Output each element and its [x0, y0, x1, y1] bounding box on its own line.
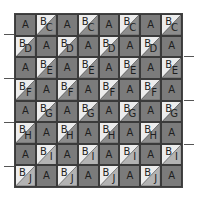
triangle-label-top: B: [103, 168, 110, 178]
half-square-triangle-e: BE: [36, 57, 57, 79]
half-square-triangle-d: BD: [15, 36, 36, 58]
triangle-label-bottom: C: [129, 23, 136, 33]
half-square-triangle-h: BH: [140, 122, 161, 144]
patch-label: A: [147, 63, 154, 73]
patch-label: A: [64, 20, 71, 30]
triangle-label-top: B: [61, 82, 68, 92]
patch-a: A: [15, 101, 36, 123]
patch-label: A: [85, 85, 92, 95]
triangle-label-bottom: D: [108, 44, 116, 54]
triangle-label-bottom: E: [130, 66, 136, 76]
patch-a: A: [140, 101, 161, 123]
triangle-label-bottom: H: [108, 131, 116, 141]
triangle-label-bottom: J: [112, 174, 115, 184]
triangle-label-top: B: [144, 82, 151, 92]
triangle-label-bottom: I: [133, 152, 136, 162]
half-square-triangle-d: BD: [57, 36, 78, 58]
triangle-label-bottom: D: [149, 44, 157, 54]
half-square-triangle-c: BC: [36, 14, 57, 36]
patch-a: A: [119, 36, 140, 58]
patch-a: A: [78, 122, 99, 144]
triangle-label-top: B: [144, 168, 151, 178]
patch-a: A: [99, 14, 120, 36]
patch-label: A: [22, 150, 29, 160]
patch-label: A: [85, 128, 92, 138]
patch-label: A: [106, 150, 113, 160]
half-square-triangle-g: BG: [119, 101, 140, 123]
half-square-triangle-h: BH: [15, 122, 36, 144]
triangle-label-top: B: [19, 168, 26, 178]
half-square-triangle-g: BG: [161, 101, 182, 123]
patch-a: A: [140, 144, 161, 166]
patch-a: A: [161, 79, 182, 101]
patch-a: A: [99, 144, 120, 166]
half-square-triangle-i: BI: [161, 144, 182, 166]
thread-tick-left: [4, 34, 14, 35]
patch-a: A: [57, 14, 78, 36]
half-square-triangle-h: BH: [57, 122, 78, 144]
triangle-label-bottom: G: [45, 109, 53, 119]
half-square-triangle-f: BF: [15, 79, 36, 101]
triangle-label-bottom: D: [66, 44, 74, 54]
patch-label: A: [22, 63, 29, 73]
patch-label: A: [126, 128, 133, 138]
triangle-label-bottom: C: [171, 23, 178, 33]
half-square-triangle-e: BE: [161, 57, 182, 79]
patch-label: A: [43, 171, 50, 181]
patch-a: A: [36, 79, 57, 101]
triangle-label-bottom: I: [175, 152, 178, 162]
patch-a: A: [161, 36, 182, 58]
half-square-triangle-j: BJ: [99, 165, 120, 187]
triangle-label-bottom: C: [46, 23, 53, 33]
patch-a: A: [15, 14, 36, 36]
patch-a: A: [99, 101, 120, 123]
patch-label: A: [106, 106, 113, 116]
quilt-grid: ABCABCABCABCBDABDABDABDAABEABEABEABEBFAB…: [14, 13, 183, 188]
half-square-triangle-i: BI: [119, 144, 140, 166]
half-square-triangle-j: BJ: [140, 165, 161, 187]
half-square-triangle-g: BG: [78, 101, 99, 123]
triangle-label-top: B: [61, 168, 68, 178]
patch-a: A: [15, 144, 36, 166]
half-square-triangle-j: BJ: [57, 165, 78, 187]
patch-label: A: [147, 20, 154, 30]
patch-a: A: [99, 57, 120, 79]
triangle-label-top: B: [165, 147, 172, 157]
patch-a: A: [15, 57, 36, 79]
patch-label: A: [168, 128, 175, 138]
patch-a: A: [161, 165, 182, 187]
patch-label: A: [126, 41, 133, 51]
triangle-label-bottom: E: [172, 66, 178, 76]
half-square-triangle-f: BF: [99, 79, 120, 101]
triangle-label-bottom: J: [29, 174, 32, 184]
patch-a: A: [36, 165, 57, 187]
patch-a: A: [36, 36, 57, 58]
triangle-label-bottom: H: [150, 131, 158, 141]
triangle-label-bottom: I: [92, 152, 95, 162]
patch-a: A: [78, 36, 99, 58]
patch-label: A: [22, 20, 29, 30]
triangle-label-bottom: C: [88, 23, 95, 33]
patch-a: A: [119, 79, 140, 101]
half-square-triangle-e: BE: [78, 57, 99, 79]
triangle-label-bottom: H: [66, 131, 74, 141]
triangle-label-bottom: F: [151, 88, 157, 98]
patch-label: A: [168, 41, 175, 51]
patch-a: A: [57, 101, 78, 123]
patch-label: A: [85, 171, 92, 181]
thread-tick-left: [4, 78, 14, 79]
half-square-triangle-d: BD: [140, 36, 161, 58]
half-square-triangle-f: BF: [140, 79, 161, 101]
patch-a: A: [78, 165, 99, 187]
half-square-triangle-e: BE: [119, 57, 140, 79]
triangle-label-top: B: [82, 147, 89, 157]
triangle-label-bottom: G: [170, 109, 178, 119]
thread-tick-right: [184, 144, 194, 145]
half-square-triangle-c: BC: [78, 14, 99, 36]
half-square-triangle-h: BH: [99, 122, 120, 144]
patch-label: A: [147, 150, 154, 160]
patch-label: A: [168, 85, 175, 95]
triangle-label-bottom: G: [87, 109, 95, 119]
triangle-label-bottom: J: [154, 174, 157, 184]
triangle-label-bottom: J: [71, 174, 74, 184]
